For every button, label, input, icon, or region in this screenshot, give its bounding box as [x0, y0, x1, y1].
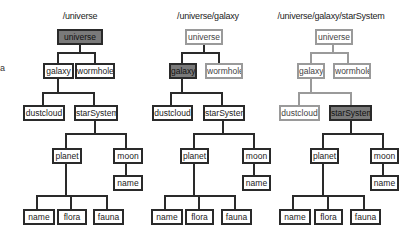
- node-galaxy[interactable]: galaxy: [43, 63, 74, 79]
- node-moon[interactable]: moon: [370, 148, 399, 164]
- tree-path-title: /universe/galaxy/starSystem: [256, 11, 406, 21]
- node-planet[interactable]: planet: [180, 148, 209, 164]
- node-planet[interactable]: planet: [52, 148, 82, 164]
- node-name[interactable]: name: [151, 209, 183, 225]
- tree-starsystem: /universe/galaxy/starSystem universe gal…: [256, 0, 416, 238]
- node-dustcloud[interactable]: dustcloud: [279, 105, 320, 121]
- node-starsystem[interactable]: starSystem: [74, 105, 118, 121]
- node-dustcloud[interactable]: dustcloud: [152, 105, 193, 121]
- node-galaxy[interactable]: galaxy: [297, 63, 325, 79]
- node-galaxy[interactable]: galaxy: [169, 63, 197, 79]
- node-flora[interactable]: flora: [57, 209, 87, 225]
- node-fauna[interactable]: fauna: [93, 209, 124, 225]
- node-flora[interactable]: flora: [185, 209, 214, 225]
- node-flora[interactable]: flora: [314, 209, 343, 225]
- node-fauna[interactable]: fauna: [221, 209, 252, 225]
- node-dustcloud[interactable]: dustcloud: [23, 105, 65, 121]
- node-name[interactable]: name: [23, 209, 55, 225]
- node-starsystem[interactable]: starSystem: [329, 105, 372, 121]
- tree-galaxy: /universe/galaxy universe galaxy wormhol…: [128, 0, 268, 238]
- node-wormhole[interactable]: wormhole: [75, 63, 115, 79]
- node-wormhole[interactable]: wormhole: [205, 63, 243, 79]
- node-fauna[interactable]: fauna: [350, 209, 381, 225]
- node-name[interactable]: name: [279, 209, 311, 225]
- node-moon-name[interactable]: name: [370, 175, 399, 191]
- node-planet[interactable]: planet: [310, 148, 339, 164]
- node-universe[interactable]: universe: [185, 29, 223, 45]
- node-starsystem[interactable]: starSystem: [203, 105, 245, 121]
- node-wormhole[interactable]: wormhole: [333, 63, 371, 79]
- node-universe[interactable]: universe: [57, 29, 103, 45]
- tree-universe: /universe universe galaxy wormhole dustc…: [0, 0, 140, 238]
- node-universe[interactable]: universe: [315, 29, 353, 45]
